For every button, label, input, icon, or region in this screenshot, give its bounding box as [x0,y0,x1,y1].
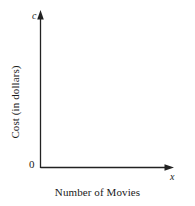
x-axis-title: Number of Movies [0,186,195,198]
y-axis-title: Cost (in dollars) [9,65,21,138]
x-axis-variable-label: x [170,172,174,182]
x-axis-arrowhead [165,164,175,171]
figure-screenshot: c x 0 Cost (in dollars) Number of Movies [0,0,195,206]
y-axis-variable-label: c [32,11,36,21]
y-axis-title-container: Cost (in dollars) [0,56,30,148]
origin-label: 0 [29,159,35,170]
coordinate-axes-figure: c x 0 Cost (in dollars) Number of Movies [0,0,195,206]
y-axis-arrowhead [37,10,44,20]
